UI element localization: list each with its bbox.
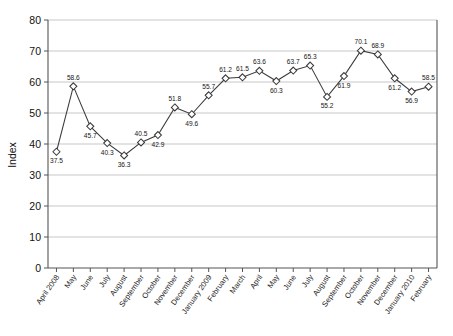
data-label-22: 58.5	[422, 74, 435, 81]
y-tick-label-50: 50	[29, 107, 41, 119]
data-label-21: 56.9	[405, 97, 418, 104]
data-label-5: 40.5	[135, 130, 148, 137]
line-chart: 01020304050607080 April 2008MayJuneJulyA…	[0, 0, 453, 336]
y-tick-label-40: 40	[29, 138, 41, 150]
data-label-0: 37.5	[50, 157, 63, 164]
data-label-3: 40.3	[101, 149, 114, 156]
data-label-19: 68.9	[371, 42, 384, 49]
y-tick-label-10: 10	[29, 231, 41, 243]
data-label-9: 55.7	[202, 83, 215, 90]
y-tick-label-80: 80	[29, 14, 41, 26]
data-label-2: 45.7	[84, 132, 97, 139]
y-tick-label-60: 60	[29, 76, 41, 88]
data-label-16: 55.2	[321, 102, 334, 109]
data-label-11: 61.5	[236, 65, 249, 72]
chart-canvas: 01020304050607080 April 2008MayJuneJulyA…	[0, 0, 453, 336]
data-label-17: 61.9	[338, 82, 351, 89]
data-label-7: 51.8	[168, 95, 181, 102]
y-tick-label-0: 0	[35, 262, 41, 274]
data-label-4: 36.3	[118, 161, 131, 168]
data-label-14: 63.7	[287, 58, 300, 65]
data-label-13: 60.3	[270, 87, 283, 94]
y-tick-label-20: 20	[29, 200, 41, 212]
data-label-12: 63.6	[253, 58, 266, 65]
y-tick-label-70: 70	[29, 45, 41, 57]
data-label-6: 42.9	[152, 141, 165, 148]
data-label-1: 58.6	[67, 74, 80, 81]
y-tick-label-30: 30	[29, 169, 41, 181]
data-label-15: 65.3	[304, 53, 317, 60]
data-label-20: 61.2	[388, 84, 401, 91]
data-label-10: 61.2	[219, 66, 232, 73]
data-label-18: 70.1	[354, 38, 367, 45]
y-axis-title: Index	[6, 141, 18, 167]
data-label-8: 49.6	[185, 120, 198, 127]
